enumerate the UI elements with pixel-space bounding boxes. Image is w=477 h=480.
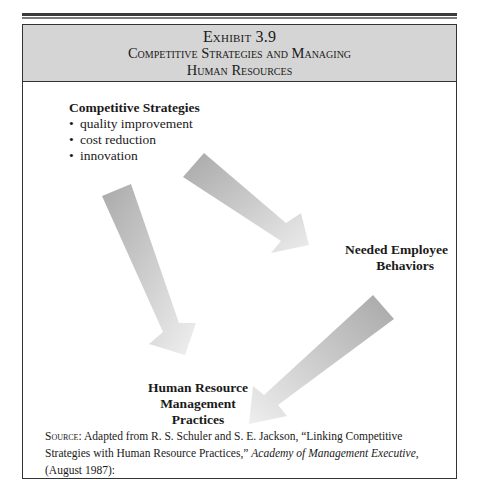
node-needed-employee-behaviors: Needed Employee Behaviors bbox=[308, 242, 448, 274]
hrm-line3: Practices bbox=[123, 412, 273, 428]
node-competitive-strategies: Competitive Strategies •quality improvem… bbox=[69, 100, 200, 164]
source-journal: Academy of Management Executive bbox=[251, 447, 415, 459]
source-citation: Source: Adapted from R. S. Schuler and S… bbox=[45, 428, 445, 479]
exhibit-box: Exhibit 3.9 Competitive Strategies and M… bbox=[22, 24, 457, 479]
bullet-icon: • bbox=[69, 148, 80, 164]
list-item: •cost reduction bbox=[69, 132, 200, 148]
list-item: •quality improvement bbox=[69, 116, 200, 132]
arrow-strategies-to-behaviors bbox=[183, 153, 309, 253]
hrm-line2: Management bbox=[123, 396, 273, 412]
bullet-icon: • bbox=[69, 116, 80, 132]
behaviors-line2: Behaviors bbox=[308, 258, 448, 274]
arrow-strategies-to-hrm bbox=[102, 184, 196, 355]
list-item: •innovation bbox=[69, 148, 200, 164]
hrm-line1: Human Resource bbox=[123, 380, 273, 396]
strategies-list: •quality improvement •cost reduction •in… bbox=[69, 116, 200, 164]
bullet-icon: • bbox=[69, 132, 80, 148]
behaviors-line1: Needed Employee bbox=[308, 242, 448, 258]
source-label: Source: bbox=[45, 430, 82, 442]
strategies-title: Competitive Strategies bbox=[69, 100, 200, 116]
node-hrm-practices: Human Resource Management Practices bbox=[123, 380, 273, 428]
